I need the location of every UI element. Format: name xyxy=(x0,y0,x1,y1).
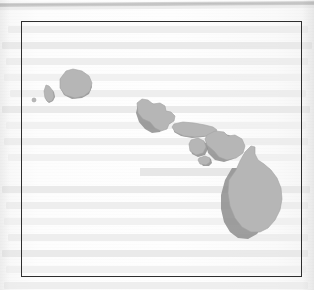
hawaiian-islands-map xyxy=(22,22,300,275)
island-kahoolawe xyxy=(198,156,210,165)
island-landmasses xyxy=(32,69,282,232)
island-niihau xyxy=(44,85,54,102)
island-lehua xyxy=(32,98,36,102)
island-kauai xyxy=(60,69,92,98)
scanned-page xyxy=(0,0,314,290)
map-canvas xyxy=(22,22,301,276)
map-frame-border xyxy=(21,21,302,277)
page-edge-shadow-left xyxy=(0,0,10,290)
island-lanai xyxy=(189,138,206,155)
island-hawaii xyxy=(228,146,282,232)
page-edge-shadow-right xyxy=(302,0,314,290)
